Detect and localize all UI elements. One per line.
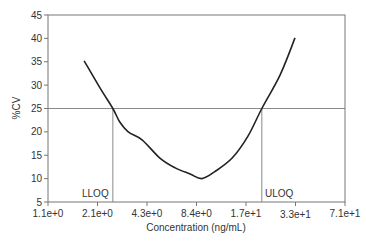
cv-chart: 510152025303540451.1e+02.1e+04.3e+08.4e+… (0, 0, 366, 245)
axes: 510152025303540451.1e+02.1e+04.3e+08.4e+… (31, 10, 361, 221)
y-tick-label: 20 (31, 126, 43, 137)
y-tick-label: 30 (31, 80, 43, 91)
y-tick-label: 45 (31, 10, 43, 21)
chart-canvas: 510152025303540451.1e+02.1e+04.3e+08.4e+… (0, 0, 366, 245)
x-tick-label: 1.1e+0 (33, 208, 64, 219)
y-tick-label: 5 (36, 197, 42, 208)
y-tick-label: 10 (31, 173, 43, 184)
y-tick-label: 25 (31, 103, 43, 114)
lloq-annotation: LLOQ (82, 188, 109, 199)
y-tick-label: 15 (31, 150, 43, 161)
uloq-annotation: ULOQ (265, 188, 294, 199)
x-tick-label: 3.3e+1 (280, 209, 311, 220)
x-tick-label: 7.1e+1 (330, 208, 361, 219)
y-axis-label: %CV (11, 96, 22, 119)
y-tick-label: 35 (31, 56, 43, 67)
x-tick-label: 4.3e+0 (132, 208, 163, 219)
x-axis-label: Concentration (ng/mL) (146, 222, 246, 233)
x-tick-label: 1.7e+1 (231, 208, 262, 219)
x-tick-label: 2.1e+0 (82, 208, 113, 219)
y-tick-label: 40 (31, 33, 43, 44)
x-tick-label: 8.4e+0 (181, 208, 212, 219)
